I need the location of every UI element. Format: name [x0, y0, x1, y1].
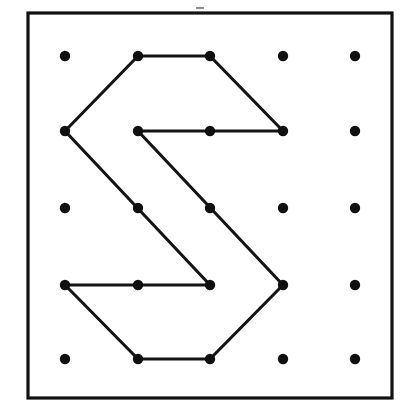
peg-dot-r4c1[interactable] — [60, 280, 70, 290]
peg-dot-r2c5[interactable] — [350, 126, 360, 136]
peg-dot-r1c1[interactable] — [60, 51, 70, 61]
peg-dot-r2c2[interactable] — [133, 126, 143, 136]
peg-dot-r4c2[interactable] — [133, 280, 143, 290]
peg-dot-r4c5[interactable] — [350, 280, 360, 290]
scan-speck — [196, 7, 204, 9]
peg-dot-r2c3[interactable] — [205, 126, 215, 136]
peg-dot-r5c4[interactable] — [278, 354, 288, 364]
geoboard-canvas — [0, 0, 409, 418]
peg-dot-r5c1[interactable] — [60, 354, 70, 364]
peg-dot-r2c1[interactable] — [60, 126, 70, 136]
peg-dot-r5c2[interactable] — [133, 354, 143, 364]
peg-dot-r5c5[interactable] — [350, 354, 360, 364]
peg-dot-r3c3[interactable] — [205, 203, 215, 213]
peg-dot-r1c3[interactable] — [205, 51, 215, 61]
peg-dot-r1c5[interactable] — [350, 51, 360, 61]
peg-dot-r3c2[interactable] — [133, 203, 143, 213]
peg-dot-r4c3[interactable] — [205, 280, 215, 290]
peg-dot-r1c2[interactable] — [133, 51, 143, 61]
peg-dot-r4c4[interactable] — [278, 280, 288, 290]
peg-dot-r1c4[interactable] — [278, 51, 288, 61]
peg-dot-r3c1[interactable] — [60, 203, 70, 213]
peg-dot-r3c5[interactable] — [350, 203, 360, 213]
peg-dot-r3c4[interactable] — [278, 203, 288, 213]
peg-dot-r2c4[interactable] — [278, 126, 288, 136]
peg-dot-r5c3[interactable] — [205, 354, 215, 364]
geoboard-figure — [0, 0, 409, 418]
